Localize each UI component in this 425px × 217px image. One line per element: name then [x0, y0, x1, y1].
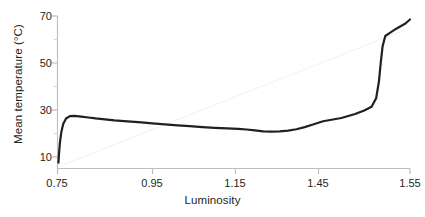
reference-line: [62, 28, 410, 165]
plot-area: [0, 0, 425, 217]
temperature-curve: [58, 20, 410, 163]
chart-figure: Mean temperature (°C) Luminosity 70 50 3…: [0, 0, 425, 217]
